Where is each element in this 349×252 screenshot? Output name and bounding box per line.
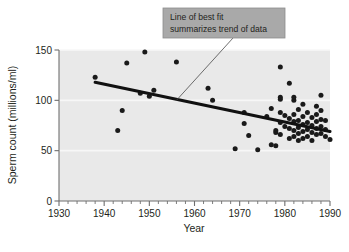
data-point [309,138,314,143]
data-point [291,134,296,139]
data-point [142,50,147,55]
data-point [305,120,310,125]
data-point [300,129,305,134]
x-axis-title: Year [183,222,205,234]
data-point [314,119,319,124]
data-point [282,124,287,129]
data-point [269,106,274,111]
data-point [269,142,274,147]
y-axis-tick-labels: 050100150 [35,45,52,207]
data-point [296,118,301,123]
data-point [287,126,292,131]
data-point [305,134,310,139]
data-point [309,115,314,120]
data-point [296,138,301,143]
x-axis-major-ticks [59,201,330,206]
data-point [291,95,296,100]
data-point [314,104,319,109]
data-point [210,98,215,103]
data-point [282,113,287,118]
data-point [323,134,328,139]
y-tick-label: 100 [35,95,52,106]
data-point [287,116,292,121]
x-tick-label: 1980 [274,208,297,219]
data-point [318,131,323,136]
data-point [291,128,296,133]
data-point [318,117,323,122]
data-point [296,107,301,112]
x-tick-label: 1940 [93,208,116,219]
x-axis-tick-labels: 1930194019501960197019801990 [48,208,342,219]
data-point [278,95,283,100]
data-point [255,147,260,152]
x-tick-label: 1930 [48,208,71,219]
data-point [246,133,251,138]
data-point [300,114,305,119]
x-tick-label: 1970 [229,208,252,219]
y-tick-label: 0 [46,196,52,207]
data-point [318,108,323,113]
data-point [318,93,323,98]
data-point [273,143,278,148]
data-point [287,81,292,86]
data-point [93,75,98,80]
data-point [115,128,120,133]
data-point [233,146,238,151]
data-point [273,128,278,133]
data-point [278,65,283,70]
data-point [300,102,305,107]
callout-line-1: Line of best fit [170,12,224,22]
data-point [296,131,301,136]
scatter-chart-figure: 1930194019501960197019801990 050100150 L… [0,0,349,252]
data-point [314,132,319,137]
data-point [323,118,328,123]
y-tick-label: 50 [41,145,53,156]
x-tick-label: 1960 [183,208,206,219]
data-point [287,136,292,141]
data-point [305,110,310,115]
data-point [278,110,283,115]
data-point [151,88,156,93]
y-tick-label: 150 [35,45,52,56]
y-axis-title: Sperm count (millions/ml) [6,66,18,184]
data-point [278,132,283,137]
data-point [206,86,211,91]
x-tick-label: 1950 [138,208,161,219]
data-point [124,61,129,66]
data-point [291,112,296,117]
data-point [328,137,333,142]
x-tick-label: 1990 [319,208,342,219]
data-point [314,112,319,117]
data-point [120,108,125,113]
y-axis-major-ticks [55,50,60,201]
data-point [300,136,305,141]
data-point [174,60,179,65]
plot-area-background [59,50,330,201]
callout-line-2: summarizes trend of data [170,24,267,34]
data-point [309,130,314,135]
data-point [242,121,247,126]
